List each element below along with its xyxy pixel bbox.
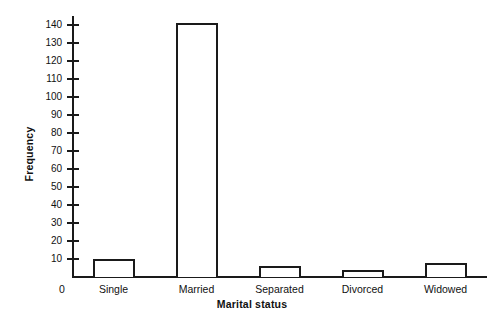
y-axis-tick	[67, 60, 79, 62]
y-axis-tick	[67, 222, 79, 224]
y-axis-tick	[67, 168, 79, 170]
y-axis-tick-label: 110	[26, 74, 62, 84]
y-axis-tick-label: 50	[26, 182, 62, 192]
y-axis-tick-label: 130	[26, 38, 62, 48]
bar	[93, 259, 135, 277]
y-axis-tick-label: 40	[26, 200, 62, 210]
bar	[342, 270, 384, 277]
bar	[176, 23, 218, 277]
x-axis-origin-label: 0	[52, 283, 72, 295]
y-axis-tick	[67, 240, 79, 242]
y-axis-tick	[67, 150, 79, 152]
y-axis-tick	[67, 24, 79, 26]
y-axis-tick-label: 20	[26, 236, 62, 246]
y-axis-tick	[67, 78, 79, 80]
bar-chart-figure: Frequency 102030405060708090100110120130…	[0, 0, 504, 321]
y-axis-tick	[67, 204, 79, 206]
x-axis-category-label: Divorced	[318, 283, 408, 295]
y-axis-tick-label: 30	[26, 218, 62, 228]
y-axis-tick	[67, 132, 79, 134]
x-axis-title: Marital status	[0, 298, 504, 310]
y-axis-tick	[67, 258, 79, 260]
y-axis-tick-label: 70	[26, 146, 62, 156]
y-axis-tick	[67, 96, 79, 98]
y-axis-tick-label: 100	[26, 92, 62, 102]
bar	[259, 266, 301, 277]
y-axis-tick	[67, 42, 79, 44]
x-axis-category-label: Widowed	[401, 283, 491, 295]
bar	[425, 263, 467, 277]
x-axis-category-label: Married	[152, 283, 242, 295]
y-axis-tick-label: 140	[26, 20, 62, 30]
y-axis-line	[72, 16, 74, 277]
y-axis-tick-label: 120	[26, 56, 62, 66]
y-axis-tick-label: 60	[26, 164, 62, 174]
x-axis-category-label: Separated	[235, 283, 325, 295]
y-axis-tick	[67, 114, 79, 116]
x-axis-category-label: Single	[69, 283, 159, 295]
y-axis-tick	[67, 186, 79, 188]
y-axis-tick-label: 10	[26, 254, 62, 264]
y-axis-tick-label: 80	[26, 128, 62, 138]
y-axis-tick-label: 90	[26, 110, 62, 120]
